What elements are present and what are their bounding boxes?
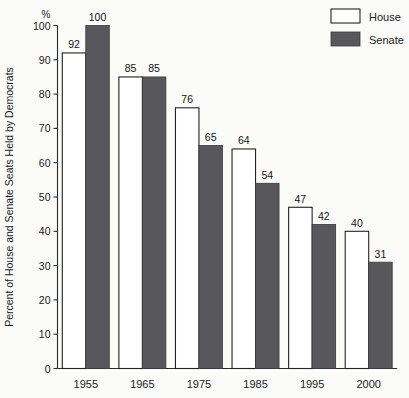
- bar-value-label-house: 85: [125, 62, 137, 74]
- bar-value-label-house: 40: [351, 217, 363, 229]
- y-axis-tick-label: 90: [39, 54, 51, 66]
- bar-senate: [256, 183, 279, 368]
- chart-canvas: 0102030405060708090100%Percent of House …: [0, 0, 409, 398]
- x-axis-category-label: 1985: [243, 378, 267, 390]
- y-axis-unit-label: %: [42, 9, 51, 20]
- bar-house: [289, 207, 313, 368]
- y-axis-tick-label: 40: [39, 225, 51, 237]
- bar-value-label-house: 47: [295, 193, 307, 205]
- bar-value-label-senate: 85: [148, 62, 160, 74]
- y-axis-tick-label: 10: [39, 328, 51, 340]
- y-axis-tick-label: 100: [33, 20, 51, 32]
- x-axis-category-label: 1975: [187, 378, 211, 390]
- bar-value-label-senate: 65: [205, 131, 217, 143]
- bar-house: [175, 108, 199, 369]
- bar-value-label-senate: 42: [318, 210, 330, 222]
- legend-label-senate: Senate: [369, 34, 404, 46]
- legend: HouseSenate: [331, 9, 404, 46]
- y-axis-tick-label: 20: [39, 294, 51, 306]
- x-axis-category-label: 2000: [356, 378, 380, 390]
- legend-label-house: House: [369, 11, 401, 23]
- x-axis-category-label: 1955: [74, 378, 98, 390]
- legend-swatch-house: [331, 9, 360, 23]
- bar-senate: [199, 146, 223, 369]
- y-axis-title: Percent of House and Senate Seats Held b…: [3, 67, 15, 327]
- bar-senate: [142, 77, 166, 369]
- y-axis-tick-label: 60: [39, 157, 51, 169]
- bar-value-label-house: 64: [238, 134, 250, 146]
- bar-house: [232, 149, 256, 369]
- y-axis-tick-label: 0: [45, 363, 51, 375]
- bar-group: 40312000: [345, 217, 392, 390]
- x-axis-category-label: 1995: [300, 378, 324, 390]
- bar-house: [119, 77, 143, 369]
- bar-group: 85851965: [119, 62, 166, 389]
- bar-senate: [369, 262, 393, 368]
- bar-group: 64541985: [232, 134, 279, 389]
- y-axis-tick-label: 80: [39, 88, 51, 100]
- x-axis-category-label: 1965: [130, 378, 154, 390]
- bar-house: [62, 53, 86, 369]
- bar-value-label-senate: 31: [375, 248, 387, 260]
- legend-swatch-senate: [331, 32, 360, 46]
- bar-house: [345, 231, 369, 368]
- bar-senate: [312, 224, 336, 368]
- bar-group: 47421995: [289, 193, 336, 390]
- bar-group: 921001955: [62, 11, 109, 390]
- bar-value-label-house: 76: [181, 93, 193, 105]
- bar-value-label-house: 92: [68, 38, 80, 50]
- bar-value-label-senate: 54: [261, 169, 273, 181]
- bar-group: 76651975: [175, 93, 222, 389]
- bar-chart: 0102030405060708090100%Percent of House …: [0, 0, 409, 398]
- y-axis-tick-label: 30: [39, 260, 51, 272]
- y-axis-tick-label: 50: [39, 191, 51, 203]
- bar-value-label-senate: 100: [89, 11, 107, 23]
- y-axis-tick-label: 70: [39, 122, 51, 134]
- bar-senate: [86, 26, 110, 369]
